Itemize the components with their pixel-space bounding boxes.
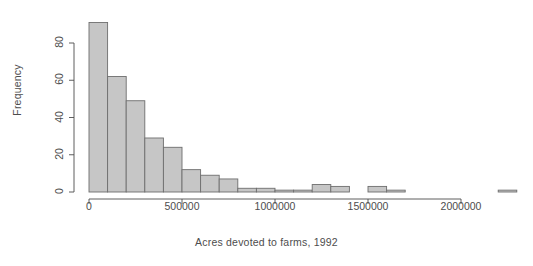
y-axis [69,43,74,192]
y-axis-title: Frequency [11,40,23,140]
histogram-bar [387,190,406,192]
x-tick-label: 1000000 [255,200,296,212]
histogram-bar [368,186,387,192]
histogram-bar [275,190,294,192]
histogram-bar [201,175,220,192]
histogram-bar [108,77,127,192]
histogram-bar [219,179,238,192]
histogram-bar [294,190,313,192]
histogram-figure: Acres devoted to farms, 1992 Frequency 0… [0,0,533,266]
y-tick-label: 80 [53,22,65,62]
histogram-bar [163,147,182,192]
histogram-bar [89,23,108,192]
histogram-plot-area [0,0,533,266]
histogram-bar [312,185,331,192]
y-tick-label: 0 [53,171,65,211]
histogram-bar [238,188,257,192]
histogram-bar [182,170,201,192]
x-tick-label: 2000000 [441,200,482,212]
histogram-bars [89,23,517,192]
x-tick-label: 0 [86,200,92,212]
y-tick-label: 20 [53,134,65,174]
histogram-bar [145,138,164,192]
x-axis-title: Acres devoted to farms, 1992 [0,236,533,248]
histogram-bar [331,186,350,192]
y-tick-label: 40 [53,97,65,137]
x-tick-label: 1500000 [348,200,389,212]
histogram-bar [126,101,145,192]
x-tick-label: 500000 [164,200,199,212]
y-tick-label: 60 [53,59,65,99]
histogram-bar [498,190,517,192]
histogram-bar [256,188,275,192]
